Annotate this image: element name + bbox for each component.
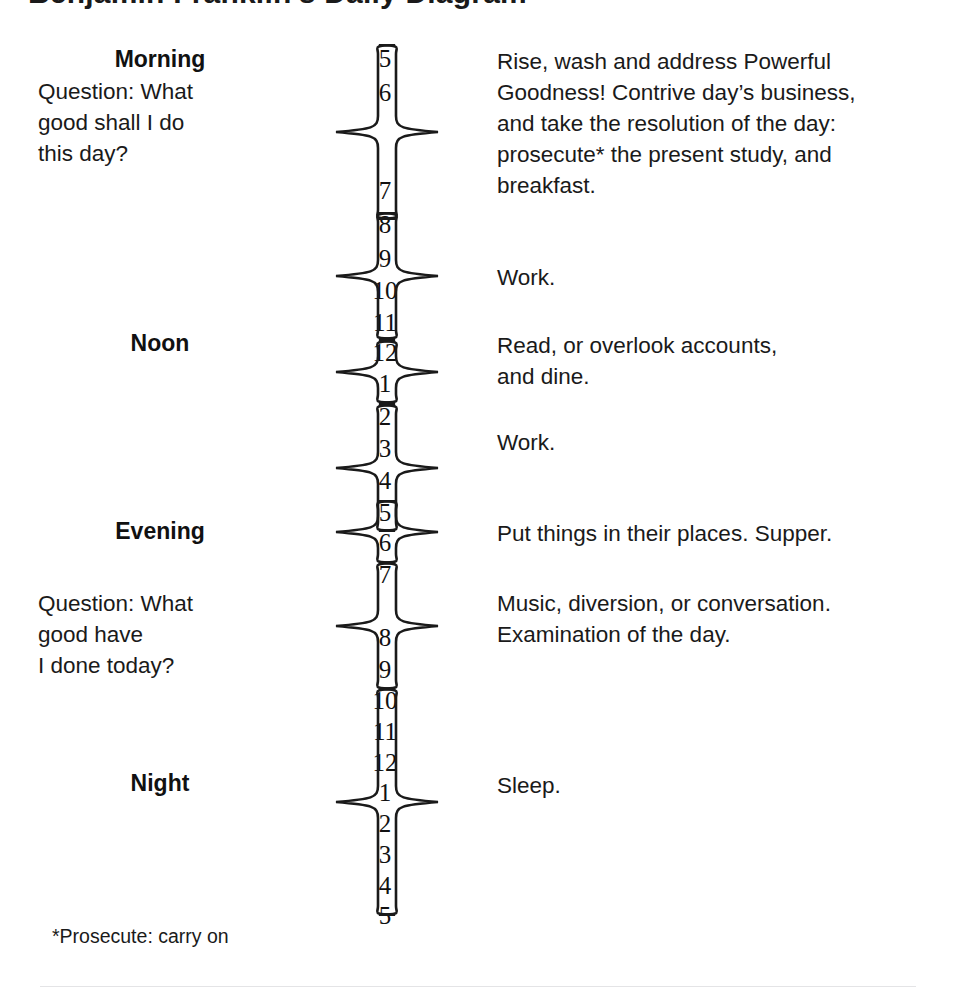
description-line: breakfast. [497, 170, 947, 201]
brace-evening-music [326, 562, 448, 690]
page-title-text: Benjamin Franklin's Daily Diagram [28, 0, 527, 10]
right-brace [380, 341, 438, 403]
question-line: good have [38, 619, 318, 650]
description-line: Rise, wash and address Powerful [497, 46, 947, 77]
description-afternoon-work: Work. [497, 427, 947, 458]
brace-morning-work [326, 212, 448, 340]
page-title-cropped: Benjamin Franklin's Daily Diagram [0, 0, 954, 16]
brace-noon-read-dine [326, 340, 448, 404]
brace-night-sleep [326, 688, 448, 916]
question-line: I done today? [38, 650, 318, 681]
description-line: Goodness! Contrive day’s business, [497, 77, 947, 108]
question-line: Question: What [38, 588, 318, 619]
description-morning-work: Work. [497, 262, 947, 293]
left-brace [336, 563, 394, 689]
description-evening-supper: Put things in their places. Supper. [497, 518, 947, 549]
description-evening-music: Music, diversion, or conversation.Examin… [497, 588, 947, 650]
question-line: Question: What [38, 76, 318, 107]
description-night-sleep: Sleep. [497, 770, 947, 801]
description-line: Sleep. [497, 770, 947, 801]
period-label-evening: Evening [0, 518, 320, 545]
footnote: *Prosecute: carry on [52, 925, 229, 948]
description-line: Read, or overlook accounts, [497, 330, 947, 361]
right-brace [380, 501, 438, 563]
right-brace [380, 563, 438, 689]
period-label-morning: Morning [0, 46, 320, 73]
left-brace [336, 45, 394, 219]
left-brace [336, 213, 394, 339]
description-line: Examination of the day. [497, 619, 947, 650]
description-noon-accounts: Read, or overlook accounts,and dine. [497, 330, 947, 392]
brace-morning-rise [326, 44, 448, 220]
description-line: Put things in their places. Supper. [497, 518, 947, 549]
description-line: Work. [497, 262, 947, 293]
description-line: prosecute* the present study, and [497, 139, 947, 170]
period-label-noon: Noon [0, 330, 320, 357]
brace-evening-supper [326, 500, 448, 564]
left-brace [336, 689, 394, 915]
question-line: good shall I do [38, 107, 318, 138]
period-label-night: Night [0, 770, 320, 797]
reflection-question-1: Question: Whatgood shall I dothis day? [38, 76, 318, 169]
right-brace [380, 689, 438, 915]
description-line: and take the resolution of the day: [497, 108, 947, 139]
left-brace [336, 341, 394, 403]
right-brace [380, 45, 438, 219]
left-brace [336, 501, 394, 563]
description-line: and dine. [497, 361, 947, 392]
description-line: Music, diversion, or conversation. [497, 588, 947, 619]
bottom-divider [40, 986, 916, 987]
right-brace [380, 213, 438, 339]
question-line: this day? [38, 138, 318, 169]
description-line: Work. [497, 427, 947, 458]
reflection-question-2: Question: Whatgood haveI done today? [38, 588, 318, 681]
description-morning-activities: Rise, wash and address PowerfulGoodness!… [497, 46, 947, 201]
